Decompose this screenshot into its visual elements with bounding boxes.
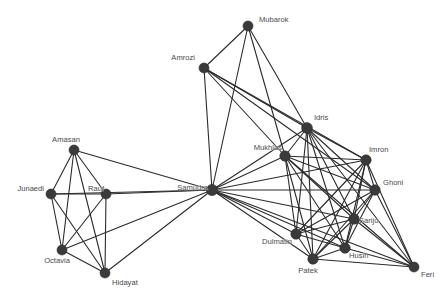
graph-node-label-mubarok: Mubarok [259, 15, 289, 24]
graph-node-mukhlas[interactable] [280, 151, 290, 161]
graph-node-label-mukhlas: Mukhlas [254, 143, 282, 152]
edges-layer [51, 26, 414, 273]
graph-node-label-amrozi: Amrozi [171, 53, 195, 62]
graph-edge [212, 26, 248, 190]
graph-node-label-rauf: Rauf [88, 184, 105, 193]
graph-node-label-idris: Idris [314, 113, 329, 122]
graph-node-label-imron: Imron [369, 145, 388, 154]
graph-node-amasan[interactable] [69, 145, 79, 155]
graph-node-samudra[interactable] [206, 184, 217, 195]
graph-node-imron[interactable] [361, 155, 371, 165]
graph-edge [51, 150, 74, 194]
graph-node-label-feri: Feri [421, 270, 434, 279]
graph-node-label-patek: Patek [298, 266, 318, 275]
graph-edge [212, 156, 285, 190]
graph-edge [248, 26, 307, 128]
graph-node-octavia[interactable] [57, 245, 67, 255]
network-graph-figure: MubarokAmroziIdrisMukhlasImronGhoniSarij… [0, 0, 448, 293]
graph-node-feri[interactable] [409, 262, 419, 272]
graph-node-ghoni[interactable] [370, 185, 380, 195]
graph-node-sarijo[interactable] [349, 214, 359, 224]
graph-edge [74, 150, 105, 273]
labels-layer: MubarokAmroziIdrisMukhlasImronGhoniSarij… [17, 15, 434, 287]
graph-node-label-sarijo: Sarijo [359, 216, 378, 225]
graph-node-label-amasan: Amasan [52, 135, 80, 144]
graph-node-idris[interactable] [302, 123, 313, 134]
graph-node-label-dulmatin: Dulmatin [262, 237, 292, 246]
graph-node-dulmatin[interactable] [291, 229, 301, 239]
graph-node-label-octavia: Octavia [44, 256, 71, 265]
graph-node-junaedi[interactable] [46, 189, 56, 199]
graph-edge [375, 190, 414, 267]
graph-node-patek[interactable] [308, 254, 318, 264]
graph-edge [204, 26, 248, 68]
graph-node-hidayat[interactable] [100, 268, 110, 278]
nodes-layer [46, 21, 419, 278]
graph-edge [212, 190, 296, 234]
graph-node-amrozi[interactable] [199, 63, 209, 73]
graph-edge [204, 68, 212, 190]
graph-edge [105, 194, 106, 273]
graph-edge [62, 190, 212, 250]
graph-node-label-junaedi: Junaedi [17, 184, 44, 193]
network-graph-canvas: MubarokAmroziIdrisMukhlasImronGhoniSarij… [0, 0, 448, 293]
graph-node-label-ghoni: Ghoni [383, 178, 404, 187]
graph-node-label-husin: Husin [349, 251, 368, 260]
graph-edge [105, 190, 212, 273]
graph-node-mubarok[interactable] [243, 21, 253, 31]
graph-node-label-hidayat: Hidayat [112, 278, 139, 287]
graph-edge [62, 150, 74, 250]
graph-edge [285, 156, 366, 160]
graph-node-label-samudra: Samudra [177, 183, 209, 192]
